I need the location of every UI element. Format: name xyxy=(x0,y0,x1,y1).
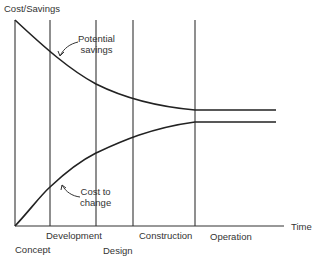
phase-concept: Concept xyxy=(15,244,50,255)
potential-savings-label-line1: Potential xyxy=(78,33,115,44)
cost-to-change-label-line1: Cost to xyxy=(80,186,111,197)
potential-savings-label: Potential savings xyxy=(78,33,115,55)
y-axis-label: Cost/Savings xyxy=(4,3,60,14)
cost-to-change-label-line2: change xyxy=(80,197,111,208)
cost-to-change-label: Cost to change xyxy=(80,186,111,208)
cost-savings-diagram xyxy=(0,0,317,261)
phase-development: Development xyxy=(46,230,102,241)
phase-design: Design xyxy=(103,245,133,256)
phase-operation: Operation xyxy=(210,231,252,242)
phase-construction: Construction xyxy=(139,230,192,241)
x-axis-label: Time xyxy=(291,221,312,232)
potential-savings-curve xyxy=(15,20,276,110)
cost-to-change-curve xyxy=(15,122,276,226)
potential-savings-label-line2: savings xyxy=(78,44,115,55)
